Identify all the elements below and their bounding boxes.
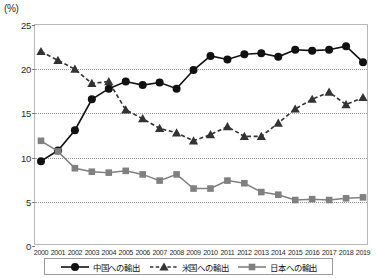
series-line-2 (41, 52, 363, 141)
data-point (326, 197, 333, 204)
x-axis-tick-label-2001: 2001 (51, 248, 65, 257)
y-axis-unit-label: (%) (4, 3, 19, 14)
x-axis-tick-label-2011: 2011 (220, 248, 234, 257)
data-point (358, 93, 367, 101)
data-point (37, 157, 45, 165)
y-axis-tick-label-15: 15 (21, 108, 31, 119)
legend-entry-1[interactable]: 中国への輸出 (60, 261, 140, 273)
data-point (190, 66, 198, 74)
x-axis-tick-label-2009: 2009 (186, 248, 200, 257)
x-axis-tick-label-2006: 2006 (135, 248, 149, 257)
series-line-1 (41, 46, 363, 161)
data-point (206, 52, 214, 60)
legend-label-1: 中国への輸出 (93, 261, 140, 273)
data-point (89, 168, 96, 175)
data-point (308, 47, 316, 55)
legend-marker-2 (149, 262, 179, 272)
x-axis-tick-label-2000: 2000 (34, 248, 48, 257)
x-axis-tick-label-2013: 2013 (254, 248, 268, 257)
data-point (122, 168, 129, 175)
data-point (105, 169, 112, 176)
data-series-layer (35, 25, 369, 246)
data-point (190, 185, 197, 192)
data-point (71, 126, 79, 134)
x-axis-tick-label-2002: 2002 (68, 248, 82, 257)
data-point (121, 105, 130, 113)
x-axis-tick-label-2016: 2016 (305, 248, 319, 257)
data-point (291, 46, 299, 54)
y-axis-tick-mark-0 (32, 246, 35, 247)
data-point (36, 47, 45, 55)
data-point (274, 53, 282, 61)
data-point (138, 114, 147, 122)
data-point (122, 78, 130, 86)
data-point (291, 104, 300, 112)
data-point (139, 81, 147, 89)
y-axis-tick-label-0: 0 (26, 241, 31, 252)
data-point (258, 189, 265, 196)
data-point (206, 130, 215, 138)
series-2 (36, 47, 367, 144)
x-axis-tick-label-2014: 2014 (271, 248, 285, 257)
data-point (343, 195, 350, 202)
x-axis-tick-label-2019: 2019 (356, 248, 370, 257)
data-point (223, 122, 232, 130)
x-axis-tick-label-2017: 2017 (322, 248, 336, 257)
chart-legend: 中国への輸出米国への輸出日本への輸出 (44, 258, 333, 275)
data-point (88, 95, 96, 103)
data-point (72, 165, 79, 172)
legend-label-2: 米国への輸出 (182, 261, 229, 273)
legend-entry-3[interactable]: 日本への輸出 (237, 261, 317, 273)
data-point (38, 138, 45, 145)
legend-marker-3 (237, 262, 267, 272)
x-axis-tick-label-2018: 2018 (339, 248, 353, 257)
data-point (139, 171, 146, 178)
data-point (156, 78, 164, 86)
x-axis-tick-label-2015: 2015 (288, 248, 302, 257)
series-3 (38, 138, 367, 204)
data-point (156, 177, 163, 184)
data-point (104, 77, 113, 85)
y-axis-tick-label-5: 5 (26, 196, 31, 207)
data-point (275, 191, 282, 198)
data-point (325, 46, 333, 54)
x-axis-tick-label-2003: 2003 (85, 248, 99, 257)
data-point (70, 65, 79, 73)
plot-area: 0510152025 20002001200220032004200520062… (34, 24, 368, 245)
data-point (173, 85, 181, 93)
data-point (224, 177, 231, 184)
chart-container: (%) 0510152025 2000200120022003200420052… (0, 0, 377, 278)
data-point (257, 49, 265, 57)
data-point (257, 132, 266, 140)
x-axis-tick-label-2012: 2012 (237, 248, 251, 257)
data-point (223, 55, 231, 63)
x-axis-tick-label-2008: 2008 (169, 248, 183, 257)
x-axis-tick-label-2004: 2004 (102, 248, 116, 257)
legend-label-3: 日本への輸出 (270, 261, 317, 273)
data-point (309, 196, 316, 203)
x-axis-tick-label-2005: 2005 (119, 248, 133, 257)
data-point (359, 58, 367, 66)
legend-marker-1 (60, 262, 90, 272)
data-point (360, 194, 367, 201)
y-axis-tick-label-20: 20 (21, 64, 31, 75)
x-axis-tick-label-2010: 2010 (203, 248, 217, 257)
y-axis-tick-label-25: 25 (21, 20, 31, 31)
y-axis-tick-label-10: 10 (21, 152, 31, 163)
data-point (155, 124, 164, 132)
data-point (325, 88, 334, 96)
x-axis-tick-label-2007: 2007 (152, 248, 166, 257)
data-point (173, 171, 180, 178)
series-1 (37, 42, 367, 165)
data-point (53, 56, 62, 64)
legend-entry-2[interactable]: 米国への輸出 (149, 261, 229, 273)
data-point (240, 50, 248, 58)
data-point (342, 42, 350, 50)
data-point (292, 197, 299, 204)
data-point (172, 128, 181, 136)
data-point (241, 180, 248, 187)
data-point (207, 185, 214, 192)
data-point (55, 148, 62, 155)
